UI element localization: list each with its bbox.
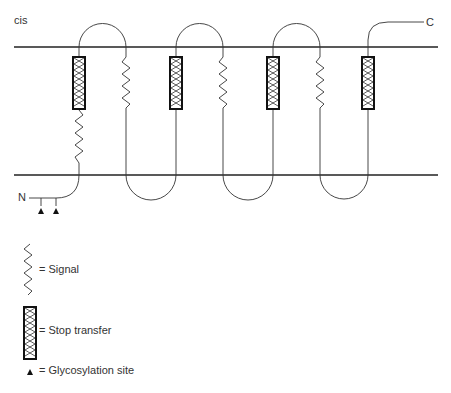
legend-stop-transfer-label: = Stop transfer bbox=[39, 324, 111, 336]
legend-signal-icon bbox=[24, 244, 32, 295]
n-terminus-label: N bbox=[18, 191, 26, 203]
signal-zigzag bbox=[316, 57, 324, 108]
c-terminus-label: C bbox=[426, 16, 434, 28]
n-terminal-chain bbox=[29, 163, 79, 198]
glycosylation-icon bbox=[38, 208, 59, 214]
signal-zigzag bbox=[75, 110, 83, 163]
cis-label: cis bbox=[14, 14, 27, 26]
legend-glycosylation-label: = Glycosylation site bbox=[39, 364, 134, 376]
c-terminal-chain bbox=[368, 22, 424, 57]
signal-zigzag bbox=[122, 57, 130, 108]
stop-transfer-box-2 bbox=[170, 57, 182, 109]
legend-signal-label: = Signal bbox=[39, 263, 79, 275]
stop-transfer-box-4 bbox=[362, 57, 374, 109]
stop-transfer-box-1 bbox=[73, 57, 85, 109]
legend-stop-transfer-icon bbox=[24, 307, 36, 359]
signal-zigzag bbox=[219, 57, 227, 108]
legend-glycosylation-icon bbox=[27, 369, 33, 375]
stop-transfer-box-3 bbox=[267, 57, 279, 109]
